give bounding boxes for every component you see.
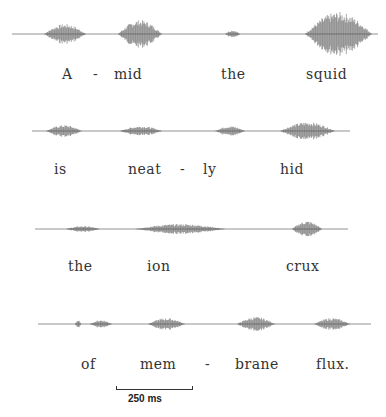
syllable-label: the xyxy=(68,259,92,273)
syllable-label: is xyxy=(54,162,67,176)
syllable-label: - xyxy=(93,67,98,81)
time-scale-bar xyxy=(116,386,193,390)
syllable-label: crux xyxy=(286,259,319,273)
syllable-label: brane xyxy=(235,357,279,371)
syllable-label: mid xyxy=(114,67,142,81)
speech-waveforms xyxy=(0,0,386,417)
waveform-line xyxy=(38,317,371,331)
syllable-label: ion xyxy=(147,259,170,273)
syllable-label: - xyxy=(205,357,210,371)
syllable-label: neat xyxy=(128,162,161,176)
syllable-label: - xyxy=(180,162,185,176)
syllable-label: squid xyxy=(306,67,347,81)
syllable-label: mem xyxy=(140,357,176,371)
waveform-line xyxy=(32,123,350,140)
syllable-label: flux. xyxy=(316,357,350,371)
waveform-line xyxy=(35,222,348,236)
syllable-label: A xyxy=(62,67,73,81)
syllable-label: of xyxy=(81,357,96,371)
time-scale-label: 250 ms xyxy=(128,393,162,404)
waveform-line xyxy=(12,12,378,56)
syllable-label: ly xyxy=(203,162,216,176)
syllable-label: hid xyxy=(280,162,304,176)
syllable-label: the xyxy=(221,67,245,81)
